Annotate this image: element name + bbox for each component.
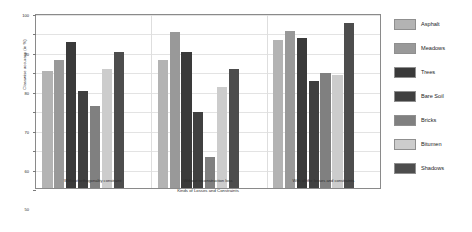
legend-swatch [394, 115, 416, 126]
bar [66, 42, 76, 188]
x-axis-group-label: Without orthogonality constraint [35, 178, 150, 183]
bar [193, 112, 203, 188]
bar [217, 87, 227, 188]
legend-label: Shadows [421, 165, 444, 171]
bar [170, 32, 180, 188]
bar [158, 60, 168, 188]
bar-group [151, 15, 266, 188]
legend-item: Bitumen [394, 132, 472, 156]
bar [229, 69, 239, 188]
bar [297, 38, 307, 188]
x-axis-group-label: Without reconstruction loss [150, 178, 265, 183]
y-axis-tick-label: 100 [22, 13, 29, 18]
bar [309, 81, 319, 188]
bar [78, 91, 88, 188]
bar-group [267, 15, 382, 188]
bar [205, 157, 215, 188]
bar [54, 60, 64, 188]
bar-group [36, 15, 151, 188]
legend-item: Bricks [394, 108, 472, 132]
legend-swatch [394, 19, 416, 30]
bar [320, 73, 330, 188]
bar [102, 69, 112, 188]
bar [344, 23, 354, 188]
bar [332, 75, 342, 188]
y-axis-tick-label: 70 [24, 129, 29, 134]
y-axis-tick-label: 80 [24, 90, 29, 95]
bar [285, 31, 295, 189]
legend-label: Trees [421, 69, 435, 75]
legend-swatch [394, 67, 416, 78]
y-axis-tick-label: 50 [24, 207, 29, 212]
legend-label: Asphalt [421, 21, 440, 27]
y-axis-tick-label: 90 [24, 51, 29, 56]
legend-swatch [394, 43, 416, 54]
legend-item: Bare Soil [394, 84, 472, 108]
x-axis-group-label: With all the losses and constraints [266, 178, 381, 183]
legend: AsphaltMeadowsTreesBare SoilBricksBitume… [394, 12, 472, 180]
y-axis-tick-label: 60 [24, 168, 29, 173]
legend-item: Shadows [394, 156, 472, 180]
legend-swatch [394, 91, 416, 102]
y-axis-title: Classwise accuracy (in %) [22, 5, 27, 125]
bar-chart-figure: Classwise accuracy (in %) 10203040506070… [0, 0, 472, 232]
bar [181, 52, 191, 188]
plot-area: 102030405060708090100 [35, 14, 381, 189]
legend-label: Bare Soil [421, 93, 444, 99]
legend-item: Meadows [394, 36, 472, 60]
bar [42, 71, 52, 188]
bar [114, 52, 124, 188]
bar [273, 40, 283, 188]
bar [90, 106, 100, 188]
legend-label: Meadows [421, 45, 445, 51]
bar-series-layer [36, 15, 380, 188]
legend-label: Bricks [421, 117, 436, 123]
legend-swatch [394, 139, 416, 150]
legend-item: Asphalt [394, 12, 472, 36]
x-axis-title: Kinds of Losses and Constraints [35, 188, 381, 193]
legend-item: Trees [394, 60, 472, 84]
legend-label: Bitumen [421, 141, 442, 147]
legend-swatch [394, 163, 416, 174]
